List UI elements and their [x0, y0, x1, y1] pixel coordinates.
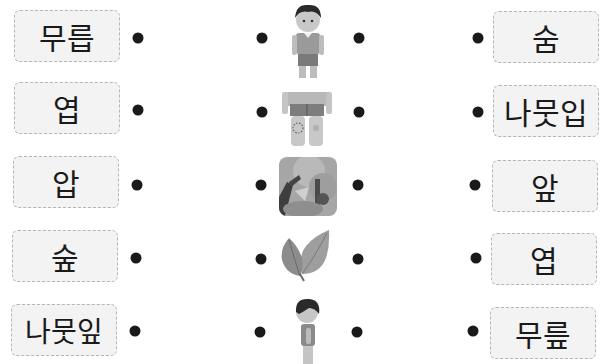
- pic-left-dot-1[interactable]: [257, 33, 268, 44]
- right-dot-2[interactable]: [473, 107, 484, 118]
- boy-front-icon: [288, 0, 328, 80]
- pic-right-dot-5[interactable]: [352, 327, 363, 338]
- boy-side-icon: [291, 294, 325, 364]
- right-dot-4[interactable]: [471, 253, 482, 264]
- left-dot-5[interactable]: [130, 326, 141, 337]
- pic-left-dot-2[interactable]: [257, 107, 268, 118]
- left-dot-4[interactable]: [131, 253, 142, 264]
- right-dot-1[interactable]: [473, 33, 484, 44]
- right-word-4[interactable]: 엽: [491, 233, 597, 285]
- leaf-icon: [280, 228, 332, 282]
- pic-right-dot-3[interactable]: [353, 180, 364, 191]
- pic-left-dot-4[interactable]: [256, 254, 267, 265]
- pic-right-dot-4[interactable]: [353, 254, 364, 265]
- right-word-2[interactable]: 나뭇입: [493, 85, 599, 137]
- left-word-4[interactable]: 숲: [12, 230, 118, 282]
- pic-left-dot-3[interactable]: [256, 180, 267, 191]
- pic-left-dot-5[interactable]: [255, 327, 266, 338]
- right-word-1[interactable]: 숨: [493, 11, 599, 63]
- right-word-5[interactable]: 무릎: [490, 307, 596, 359]
- right-word-3[interactable]: 앞: [492, 160, 598, 212]
- right-dot-3[interactable]: [470, 180, 481, 191]
- left-dot-2[interactable]: [133, 105, 144, 116]
- right-dot-5[interactable]: [468, 326, 479, 337]
- left-word-2[interactable]: 엽: [14, 82, 120, 134]
- left-word-3[interactable]: 압: [13, 156, 119, 208]
- left-dot-3[interactable]: [132, 180, 143, 191]
- left-dot-1[interactable]: [133, 33, 144, 44]
- knee-icon: [282, 90, 332, 148]
- left-word-1[interactable]: 무릅: [14, 10, 120, 62]
- forest-icon: [279, 157, 337, 216]
- left-word-5[interactable]: 나뭇잎: [11, 304, 117, 356]
- pic-right-dot-1[interactable]: [354, 33, 365, 44]
- pic-right-dot-2[interactable]: [354, 107, 365, 118]
